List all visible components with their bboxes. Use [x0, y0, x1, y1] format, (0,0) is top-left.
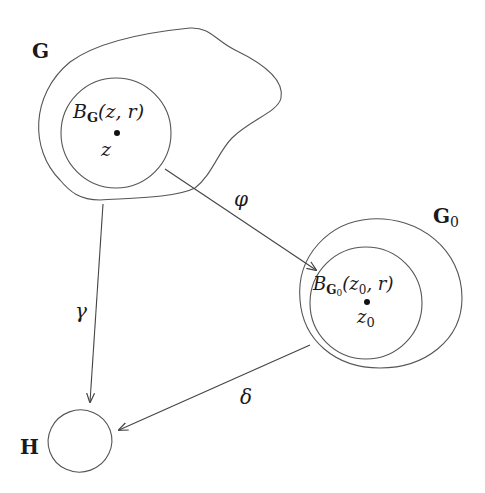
point-z0-dot: [364, 299, 370, 305]
region-g0-label: G0: [433, 204, 459, 230]
arrow-gamma: [90, 204, 103, 402]
point-z-label: z: [100, 138, 112, 160]
arrow-phi: [165, 169, 316, 270]
diagram-canvas: G BG(z, r) z G0 BG0(z0, r) z0 H φ γ δ: [0, 0, 485, 493]
point-z0-label: z0: [356, 306, 375, 330]
point-z-dot: [114, 130, 120, 136]
region-h-label: H: [20, 435, 39, 459]
arrow-delta: [119, 345, 310, 430]
region-h-outline: [39, 401, 120, 481]
region-g-label: G: [32, 39, 49, 63]
arrow-delta-label: δ: [240, 385, 252, 409]
ball-g-label: BG(z, r): [72, 100, 144, 125]
arrow-gamma-label: γ: [75, 299, 87, 323]
arrow-phi-label: φ: [234, 187, 248, 211]
ball-g0-label: BG0(z0, r): [312, 273, 393, 298]
